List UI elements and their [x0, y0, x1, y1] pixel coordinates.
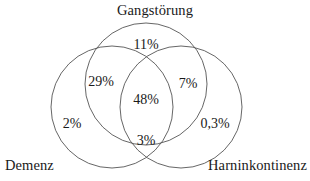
region-value-gangstoerung-demenz: 29% — [88, 75, 114, 89]
set-label-gangstoerung: Gangstörung — [0, 3, 310, 18]
venn-circles — [0, 0, 310, 181]
region-value-harninkontinenz-only: 0,3% — [200, 117, 229, 131]
circle-harninkontinenz — [120, 46, 242, 168]
region-value-all-three: 48% — [133, 93, 159, 107]
circle-demenz — [51, 46, 173, 168]
region-value-gangstoerung-harninkontinenz: 7% — [179, 77, 198, 91]
region-value-demenz-harninkontinenz: 3% — [137, 134, 156, 148]
region-value-gangstoerung-only: 11% — [133, 38, 158, 52]
set-label-harninkontinenz: Harninkontinenz — [208, 158, 307, 173]
region-value-demenz-only: 2% — [63, 117, 82, 131]
set-label-demenz: Demenz — [5, 158, 54, 173]
venn-diagram: Gangstörung Demenz Harninkontinenz 11% 2… — [0, 0, 310, 181]
